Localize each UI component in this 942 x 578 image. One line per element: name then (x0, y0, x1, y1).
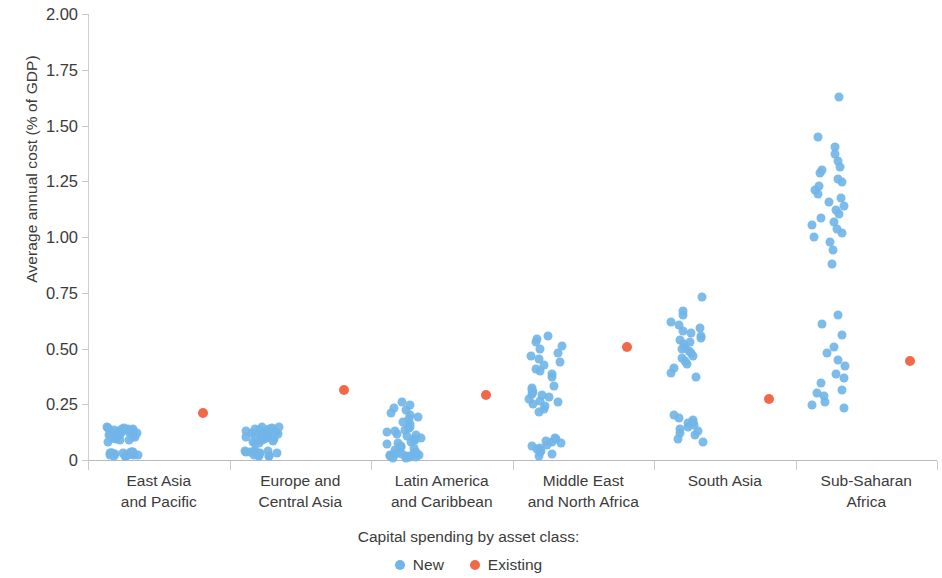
data-point-new (826, 237, 835, 246)
data-point-new (678, 354, 687, 363)
x-tick-mark (937, 461, 938, 470)
y-tick-mark (82, 460, 89, 461)
y-tick-mark (82, 181, 89, 182)
legend-item-existing[interactable]: Existing (470, 556, 542, 574)
y-tick-mark (82, 404, 89, 405)
plot-area (88, 14, 937, 460)
x-category-label-line: Sub-Saharan (790, 470, 942, 491)
data-point-new (833, 356, 842, 365)
data-point-new (241, 446, 250, 455)
y-tick-label: 0.75 (14, 285, 78, 302)
data-point-new (828, 245, 837, 254)
data-point-new (391, 427, 400, 436)
x-category-label-line: and Pacific (82, 491, 236, 512)
data-point-new (548, 369, 557, 378)
y-tick-mark (82, 293, 89, 294)
data-point-new (829, 217, 838, 226)
data-point-existing (764, 394, 774, 404)
y-tick-mark (82, 126, 89, 127)
x-tick-mark (513, 461, 514, 470)
data-point-new (102, 422, 111, 431)
legend-title: Capital spending by asset class: (0, 528, 937, 546)
x-tick-mark (654, 461, 655, 470)
data-point-new (825, 198, 834, 207)
y-tick-mark (82, 237, 89, 238)
data-point-new (835, 92, 844, 101)
legend-label: New (413, 556, 444, 574)
data-point-new (397, 397, 406, 406)
x-category-label: Latin Americaand Caribbean (365, 470, 519, 512)
data-point-existing (198, 408, 208, 418)
data-point-new (814, 133, 823, 142)
data-point-new (273, 449, 282, 458)
data-point-new (808, 400, 817, 409)
data-point-new (413, 413, 422, 422)
data-point-new (831, 143, 840, 152)
data-point-existing (905, 356, 915, 366)
data-point-new (263, 447, 272, 456)
y-tick-mark (82, 349, 89, 350)
data-point-new (837, 194, 846, 203)
data-point-new (817, 213, 826, 222)
data-point-new (695, 323, 704, 332)
data-point-new (667, 317, 676, 326)
x-category-label-line: Central Asia (224, 491, 378, 512)
x-tick-mark (371, 461, 372, 470)
data-point-new (840, 362, 849, 371)
x-category-label-line: Latin America (365, 470, 519, 491)
data-point-existing (622, 342, 632, 352)
data-point-new (810, 233, 819, 242)
y-tick-label: 1.25 (14, 173, 78, 190)
data-point-new (833, 310, 842, 319)
y-tick-label: 0.25 (14, 396, 78, 413)
data-point-new (818, 166, 827, 175)
data-point-new (814, 182, 823, 191)
data-point-new (840, 404, 849, 413)
data-point-new (554, 398, 563, 407)
x-category-label: Middle Eastand North Africa (507, 470, 661, 512)
data-point-new (837, 331, 846, 340)
data-point-existing (339, 385, 349, 395)
data-point-new (555, 358, 564, 367)
data-point-existing (481, 390, 491, 400)
legend-swatch-new-icon (395, 560, 405, 570)
data-point-new (527, 352, 536, 361)
x-category-label-line: and North Africa (507, 491, 661, 512)
data-point-new (837, 385, 846, 394)
y-tick-label: 2.00 (14, 6, 78, 23)
x-category-label-line: Middle East (507, 470, 661, 491)
x-category-label: East Asiaand Pacific (82, 470, 236, 512)
data-point-new (685, 338, 694, 347)
x-category-label-line: Europe and (224, 470, 378, 491)
x-tick-mark (230, 461, 231, 470)
data-point-new (688, 415, 697, 424)
legend-item-new[interactable]: New (395, 556, 444, 574)
x-category-label: Sub-SaharanAfrica (790, 470, 942, 512)
data-point-new (411, 431, 420, 440)
x-category-label: Europe andCentral Asia (224, 470, 378, 512)
data-point-new (831, 369, 840, 378)
data-point-new (275, 423, 284, 432)
y-tick-mark (82, 14, 89, 15)
data-point-new (119, 423, 128, 432)
x-category-label: South Asia (648, 470, 802, 491)
data-point-new (551, 434, 560, 443)
x-tick-mark (88, 461, 89, 470)
data-point-new (808, 221, 817, 230)
data-point-new (557, 341, 566, 350)
data-point-new (698, 437, 707, 446)
data-point-new (528, 442, 537, 451)
y-tick-label: 1.50 (14, 118, 78, 135)
data-point-new (813, 389, 822, 398)
data-point-new (532, 334, 541, 343)
data-point-new (676, 336, 685, 345)
y-tick-label: 1.00 (14, 229, 78, 246)
data-point-new (258, 422, 267, 431)
data-point-new (389, 403, 398, 412)
x-category-label-line: East Asia (82, 470, 236, 491)
legend-label: Existing (488, 556, 542, 574)
data-point-new (528, 384, 537, 393)
data-point-new (839, 202, 848, 211)
x-category-label-line: and Caribbean (365, 491, 519, 512)
data-point-new (834, 174, 843, 183)
